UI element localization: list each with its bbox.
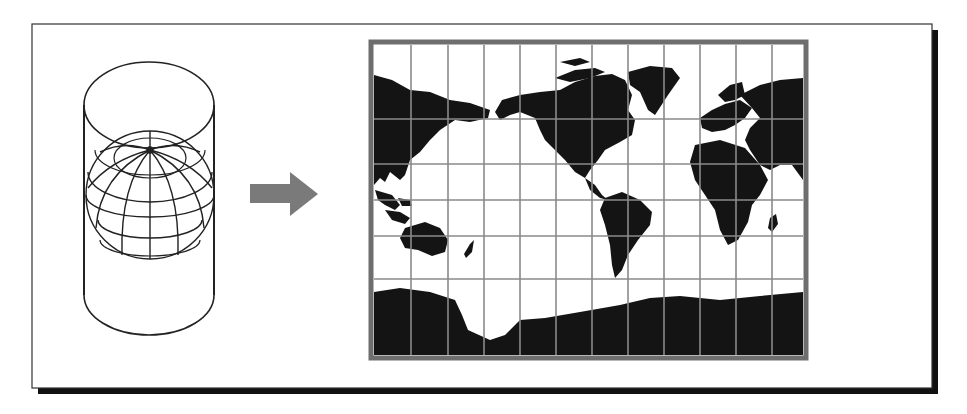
figure-canvas [0,0,967,414]
world-map [371,42,806,358]
figure [0,0,967,414]
